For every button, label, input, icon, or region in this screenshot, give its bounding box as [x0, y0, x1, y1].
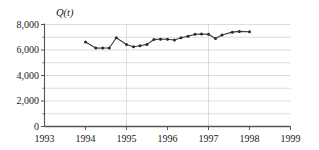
data-point	[207, 33, 210, 36]
data-point	[108, 46, 111, 49]
x-tick-label: 1996	[158, 133, 178, 144]
data-point	[180, 36, 183, 39]
data-point	[238, 30, 241, 33]
x-tick-label: 1993	[35, 133, 55, 144]
data-point	[193, 33, 196, 36]
data-point	[214, 37, 217, 40]
x-axis	[45, 127, 291, 131]
x-tick-label: 1998	[240, 133, 260, 144]
data-point	[248, 30, 251, 33]
data-point	[221, 33, 224, 36]
data-point	[125, 43, 128, 46]
y-tick-label: 6,000	[17, 44, 40, 55]
data-point	[159, 38, 162, 41]
y-tick-label: 8,000	[17, 19, 40, 30]
x-tick-label: 1997	[199, 133, 219, 144]
x-tick-labels: 1993199419951996199719981999	[35, 133, 301, 144]
data-point	[187, 35, 190, 38]
x-tick-label: 1994	[76, 133, 96, 144]
data-point	[231, 31, 234, 34]
x-tick-label: 1995	[117, 133, 137, 144]
data-point	[84, 41, 87, 44]
y-axis	[41, 24, 45, 127]
data-point	[166, 38, 169, 41]
data-point	[200, 33, 203, 36]
data-point	[152, 38, 155, 41]
data-point	[115, 36, 118, 39]
y-tick-label: 2,000	[17, 95, 40, 106]
y-tick-label: 0	[34, 121, 39, 132]
chart-container: 02,0004,0006,0008,000 199319941995199619…	[0, 0, 319, 150]
data-point	[146, 43, 149, 46]
data-series	[84, 30, 251, 50]
data-point	[94, 47, 97, 50]
y-tick-label: 4,000	[17, 70, 40, 81]
data-point	[101, 46, 104, 49]
line-chart: 02,0004,0006,0008,000 199319941995199619…	[0, 0, 319, 150]
data-point	[139, 44, 142, 47]
data-point	[132, 45, 135, 48]
y-axis-title: Q(t)	[56, 7, 74, 19]
y-tick-labels: 02,0004,0006,0008,000	[17, 19, 40, 132]
x-tick-label: 1999	[281, 133, 301, 144]
data-point	[173, 38, 176, 41]
